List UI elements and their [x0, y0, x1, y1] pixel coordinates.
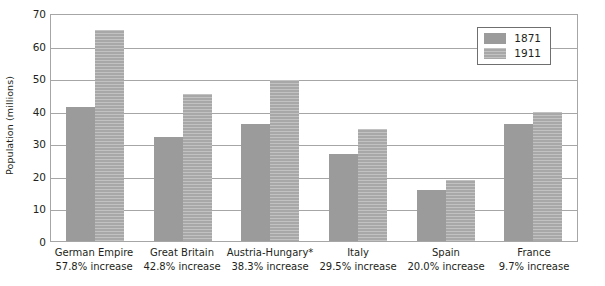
bar-group [402, 15, 490, 241]
category-increase: 29.5% increase [314, 260, 402, 274]
y-axis-tick-label: 40 [18, 107, 46, 117]
y-axis-tick-label: 0 [18, 237, 46, 247]
plot-area: 18711911 [50, 14, 578, 242]
bar-1871-france[interactable] [504, 124, 533, 241]
legend-swatch-1871 [484, 33, 506, 44]
bar-1911-germanempire[interactable] [95, 30, 124, 241]
bar-group [314, 15, 402, 241]
category-name: Austria-Hungary* [226, 246, 314, 260]
bar-group [51, 15, 139, 241]
bar-1871-austriahungary[interactable] [241, 124, 270, 241]
bar-group [226, 15, 314, 241]
y-axis-tick-label: 20 [18, 172, 46, 182]
y-axis-tick-label: 60 [18, 42, 46, 52]
bar-1871-spain[interactable] [417, 190, 446, 241]
legend-label-1911: 1911 [514, 48, 541, 59]
category-increase: 38.3% increase [226, 260, 314, 274]
x-axis-label-france: France9.7% increase [490, 246, 578, 280]
legend-item-1871[interactable]: 1871 [484, 33, 541, 44]
x-axis-category-labels: German Empire57.8% increaseGreat Britain… [50, 246, 578, 280]
y-axis-title-text: Population (millions) [5, 75, 16, 174]
category-increase: 20.0% increase [402, 260, 490, 274]
bar-1911-greatbritain[interactable] [183, 94, 212, 241]
y-axis-tick-labels: 706050403020100 [18, 14, 46, 242]
category-name: Spain [402, 246, 490, 260]
category-name: Great Britain [138, 246, 226, 260]
x-axis-label-germanempire: German Empire57.8% increase [50, 246, 138, 280]
x-axis-label-austriahungary: Austria-Hungary*38.3% increase [226, 246, 314, 280]
category-increase: 42.8% increase [138, 260, 226, 274]
bar-1871-germanempire[interactable] [66, 107, 95, 241]
category-name: Italy [314, 246, 402, 260]
bar-1911-france[interactable] [533, 112, 562, 241]
legend-item-1911[interactable]: 1911 [484, 48, 541, 59]
y-axis-tick-label: 10 [18, 204, 46, 214]
bar-group [139, 15, 227, 241]
category-increase: 57.8% increase [50, 260, 138, 274]
category-name: France [490, 246, 578, 260]
bar-1911-italy[interactable] [358, 129, 387, 241]
population-bar-chart: Population (millions) 706050403020100 18… [0, 0, 605, 286]
x-axis-label-spain: Spain20.0% increase [402, 246, 490, 280]
bar-1871-italy[interactable] [329, 154, 358, 241]
legend-label-1871: 1871 [514, 33, 541, 44]
legend: 18711911 [477, 27, 551, 65]
legend-swatch-1911 [484, 48, 506, 59]
category-increase: 9.7% increase [490, 260, 578, 274]
y-axis-title: Population (millions) [0, 0, 20, 250]
bar-1911-spain[interactable] [446, 180, 475, 241]
y-axis-tick-label: 30 [18, 139, 46, 149]
x-axis-label-italy: Italy29.5% increase [314, 246, 402, 280]
y-axis-tick-label: 50 [18, 74, 46, 84]
x-axis-label-greatbritain: Great Britain42.8% increase [138, 246, 226, 280]
category-name: German Empire [50, 246, 138, 260]
bar-1911-austriahungary[interactable] [270, 80, 299, 241]
bar-1871-greatbritain[interactable] [154, 137, 183, 241]
y-axis-tick-label: 70 [18, 9, 46, 19]
